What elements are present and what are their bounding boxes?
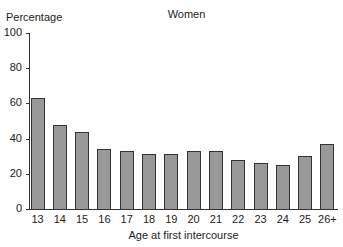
chart-title: Women	[0, 8, 343, 20]
x-tick-label: 17	[116, 213, 138, 225]
bar-14	[53, 125, 67, 210]
y-tick	[26, 139, 29, 140]
y-tick	[26, 68, 29, 69]
bar-16	[97, 149, 111, 210]
y-tick-label: 20	[0, 167, 22, 179]
bar-21	[209, 151, 223, 210]
y-tick	[26, 174, 29, 175]
y-tick-label: 0	[0, 202, 22, 214]
x-tick-label: 25	[294, 213, 316, 225]
x-tick-label: 20	[183, 213, 205, 225]
y-tick	[26, 209, 29, 210]
x-tick-label: 21	[205, 213, 227, 225]
x-tick-label: 15	[71, 213, 93, 225]
bar-23	[254, 163, 268, 210]
bar-15	[75, 132, 89, 210]
x-tick-label: 24	[272, 213, 294, 225]
y-tick-label: 100	[0, 26, 22, 38]
y-tick-label: 80	[0, 61, 22, 73]
bar-20	[187, 151, 201, 210]
y-tick-label: 40	[0, 132, 22, 144]
x-tick-label: 14	[49, 213, 71, 225]
y-tick	[26, 103, 29, 104]
bar-26+	[320, 144, 334, 210]
x-tick-label: 23	[250, 213, 272, 225]
bar-18	[142, 154, 156, 210]
x-tick-label: 18	[138, 213, 160, 225]
bar-25	[298, 156, 312, 210]
bar-13	[31, 98, 45, 210]
bar-17	[120, 151, 134, 210]
y-tick-label: 60	[0, 96, 22, 108]
bar-24	[276, 165, 290, 210]
x-tick-label: 22	[227, 213, 249, 225]
y-tick	[26, 33, 29, 34]
bar-22	[231, 160, 245, 210]
x-tick-label: 16	[93, 213, 115, 225]
x-tick-label: 19	[160, 213, 182, 225]
x-axis-label: Age at first intercourse	[29, 229, 338, 241]
x-tick-label: 13	[27, 213, 49, 225]
bar-19	[164, 154, 178, 210]
x-tick-label: 26+	[316, 213, 338, 225]
